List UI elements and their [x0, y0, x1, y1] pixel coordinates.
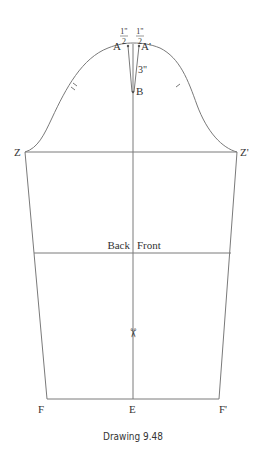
label-f-prime: F': [219, 403, 227, 415]
label-e: E: [129, 403, 136, 415]
half-inch-left-den: 2: [122, 37, 126, 46]
label-z: Z: [14, 146, 21, 158]
back-underarm-seam: [25, 152, 47, 399]
sleeve-cap-curve: [25, 43, 237, 152]
front-notch: [176, 84, 180, 87]
front-underarm-seam: [219, 152, 237, 399]
back-notch-2: [71, 87, 75, 90]
label-a: A: [113, 40, 121, 52]
sleeve-pattern-diagram: 1" 2 1" 2 A A' 3" B Z Z' Back Front ✂ F …: [0, 0, 260, 470]
scissors-icon: ✂: [126, 328, 140, 338]
label-f: F: [38, 403, 44, 415]
half-inch-left-num: 1": [120, 27, 127, 36]
figure-caption: Drawing 9.48: [103, 430, 163, 443]
point-b-marker: [132, 91, 134, 93]
half-inch-right-num: 1": [136, 27, 143, 36]
back-notch-1: [73, 83, 77, 86]
point-a-marker: [127, 45, 129, 47]
label-cap-depth: 3": [138, 64, 147, 75]
label-a-prime: A': [141, 40, 151, 52]
label-back: Back: [107, 239, 130, 251]
label-b: B: [136, 85, 143, 97]
label-z-prime: Z': [240, 146, 249, 158]
label-front: Front: [137, 239, 161, 251]
dart-line-a: [128, 46, 132, 92]
